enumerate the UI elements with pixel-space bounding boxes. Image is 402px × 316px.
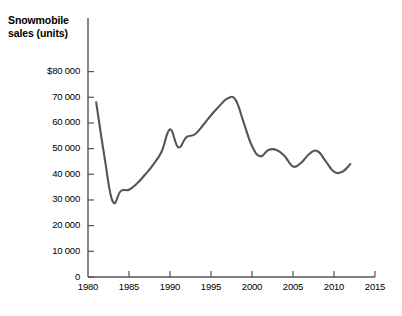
y-tick-label: 50 000 bbox=[18, 143, 80, 153]
x-tick-label: 2000 bbox=[232, 282, 272, 292]
line-chart-plot bbox=[0, 0, 402, 316]
y-axis-ticks bbox=[88, 72, 94, 277]
y-tick-label: 0 bbox=[18, 272, 80, 282]
y-tick-label: 10 000 bbox=[18, 246, 80, 256]
x-tick-label: 1990 bbox=[150, 282, 190, 292]
x-tick-label: 2015 bbox=[355, 282, 395, 292]
axes-group bbox=[88, 18, 375, 277]
data-series-line bbox=[96, 97, 350, 204]
y-tick-label: 70 000 bbox=[18, 92, 80, 102]
x-tick-label: 2010 bbox=[314, 282, 354, 292]
x-tick-label: 1995 bbox=[191, 282, 231, 292]
x-tick-label: 1985 bbox=[109, 282, 149, 292]
y-tick-label: 60 000 bbox=[18, 117, 80, 127]
y-tick-label: $80 000 bbox=[18, 66, 80, 76]
x-tick-label: 1980 bbox=[68, 282, 108, 292]
x-axis-ticks bbox=[129, 271, 375, 277]
y-tick-label: 20 000 bbox=[18, 220, 80, 230]
y-tick-label: 40 000 bbox=[18, 169, 80, 179]
x-tick-label: 2005 bbox=[273, 282, 313, 292]
y-tick-label: 30 000 bbox=[18, 194, 80, 204]
chart-page: Snowmobile sales (units) 010 00020 00030… bbox=[0, 0, 402, 316]
